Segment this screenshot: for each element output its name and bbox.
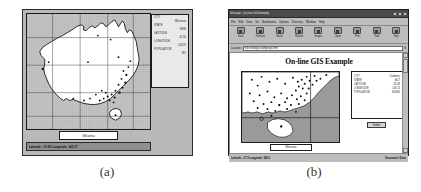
maximize-icon[interactable] xyxy=(398,12,402,16)
australia-map-svg xyxy=(27,14,150,129)
attribute-value-population: 967 xyxy=(154,53,186,57)
find-icon xyxy=(373,27,381,34)
toolbar-button-forward[interactable]: Forward xyxy=(253,27,267,38)
toolbar-label-reload: Reload xyxy=(295,34,303,38)
stop-icon xyxy=(392,27,400,34)
toolbar-label-home: Home xyxy=(276,34,282,38)
status-bar-document-state: Document: Done xyxy=(385,156,406,160)
location-url-text: http://www.gis.example/gis.html xyxy=(245,46,278,50)
home-icon xyxy=(276,27,284,34)
map-canvas-southeast-australia[interactable] xyxy=(241,71,340,143)
reload-icon xyxy=(295,27,303,34)
attribute-row-population: POPULATION 967 xyxy=(154,49,186,56)
toolbar-button-images[interactable]: Images xyxy=(311,27,325,38)
menu-item-view[interactable]: View xyxy=(246,19,252,24)
toolbar-button-stop[interactable]: Stop xyxy=(389,27,403,38)
back-arrow-icon xyxy=(237,27,245,34)
selected-city-text-b: Wilcannia xyxy=(286,145,297,149)
scroll-up-arrow-icon[interactable] xyxy=(403,53,408,58)
status-bar-coordinates-b: Latitude: -37.5 Longitude: 145.0 xyxy=(231,156,270,160)
menu-item-options[interactable]: Options xyxy=(279,19,289,24)
attribute-info-panel-b: CITY Canberra STATE ACT LATITUDE -35.28 … xyxy=(351,71,403,119)
toolbar-label-find: Find xyxy=(374,34,379,38)
submit-button[interactable]: Submit xyxy=(367,122,386,128)
menu-item-help[interactable]: Help xyxy=(319,19,325,24)
toolbar-label-back: Back xyxy=(238,34,243,38)
attribute-row-population-b: POPULATION 310000 xyxy=(354,90,400,93)
figure-a-standalone-gis-viewer: CITY Wilcannia STATE NSW LATITUDE -31.56… xyxy=(22,9,193,156)
browser-content-area: On-line GIS Example xyxy=(229,53,408,153)
selected-city-textbox[interactable]: Wilcannia xyxy=(59,131,118,140)
print-icon xyxy=(353,27,361,34)
location-label: Location: xyxy=(231,46,242,50)
menu-item-directory[interactable]: Directory xyxy=(292,19,303,24)
figure-a-caption: (a) xyxy=(0,164,214,180)
map-canvas-australia[interactable] xyxy=(26,13,151,130)
browser-window: Netscape - [On-line GIS Example] File Ed… xyxy=(228,9,409,156)
selected-city-textbox-b[interactable]: Wilcannia xyxy=(270,144,312,151)
submit-button-label: Submit xyxy=(373,123,380,127)
attribute-info-panel: CITY Wilcannia STATE NSW LATITUDE -31.56… xyxy=(151,14,189,88)
menu-item-bookmarks[interactable]: Bookmarks xyxy=(262,19,276,24)
netscape-logo: N xyxy=(404,46,406,50)
attribute-row-city-b: CITY Canberra xyxy=(354,74,400,77)
figure-b-netscape-gis-browser: Netscape - [On-line GIS Example] File Ed… xyxy=(228,9,409,156)
attribute-row-longitude-b: LONGITUDE 149.13 xyxy=(354,86,400,89)
attribute-value-population-b: 310000 xyxy=(392,90,400,94)
toolbar-label-forward: Forward xyxy=(256,34,265,38)
browser-title-text: Netscape - [On-line GIS Example] xyxy=(230,12,269,16)
toolbar-button-home[interactable]: Home xyxy=(273,27,287,38)
browser-menu-bar[interactable]: File Edit View Go Bookmarks Options Dire… xyxy=(229,18,408,26)
minimize-icon[interactable] xyxy=(393,12,397,16)
figure-b-caption: (b) xyxy=(207,164,421,180)
browser-location-bar[interactable]: Location: http://www.gis.example/gis.htm… xyxy=(229,44,408,53)
browser-title-bar[interactable]: Netscape - [On-line GIS Example] xyxy=(229,10,408,18)
toolbar-button-back[interactable]: Back xyxy=(234,27,248,38)
toolbar-button-open[interactable]: Open xyxy=(331,27,345,38)
window-control-buttons[interactable] xyxy=(393,12,407,16)
open-icon xyxy=(334,27,342,34)
attribute-row-state-b: STATE ACT xyxy=(354,78,400,81)
images-icon xyxy=(314,27,322,34)
location-input[interactable]: http://www.gis.example/gis.html xyxy=(243,46,404,51)
toolbar-label-open: Open xyxy=(335,34,341,38)
toolbar-button-print[interactable]: Print xyxy=(350,27,364,38)
forward-arrow-icon xyxy=(256,27,264,34)
menu-item-go[interactable]: Go xyxy=(255,19,259,24)
scrollbar-thumb[interactable] xyxy=(403,59,408,73)
toolbar-button-find[interactable]: Find xyxy=(370,27,384,38)
browser-status-bar: Latitude: -37.5 Longitude: 145.0 Documen… xyxy=(229,153,408,162)
menu-item-edit[interactable]: Edit xyxy=(239,19,244,24)
menu-item-file[interactable]: File xyxy=(231,19,236,24)
attribute-row-latitude-b: LATITUDE -35.28 xyxy=(354,82,400,85)
toolbar-button-reload[interactable]: Reload xyxy=(292,27,306,38)
scroll-down-arrow-icon[interactable] xyxy=(403,148,408,153)
browser-toolbar[interactable]: Back Forward Home Reload Images Open xyxy=(229,26,408,44)
toolbar-label-images: Images xyxy=(315,34,323,38)
close-icon[interactable] xyxy=(403,12,407,16)
page-title: On-line GIS Example xyxy=(230,57,408,66)
toolbar-label-print: Print xyxy=(355,34,360,38)
status-bar-coordinates: Latitude: -31.56 Longitude: 143.37 xyxy=(29,144,77,149)
status-bar: Latitude: -31.56 Longitude: 143.37 xyxy=(26,142,151,151)
vertical-scrollbar[interactable] xyxy=(402,53,408,153)
menu-item-window[interactable]: Window xyxy=(306,19,316,24)
southeast-australia-map-svg xyxy=(242,72,339,142)
toolbar-label-stop: Stop xyxy=(394,34,399,38)
attribute-label-population-b: POPULATION xyxy=(354,90,370,94)
selected-city-text: Wilcannia xyxy=(82,133,94,139)
